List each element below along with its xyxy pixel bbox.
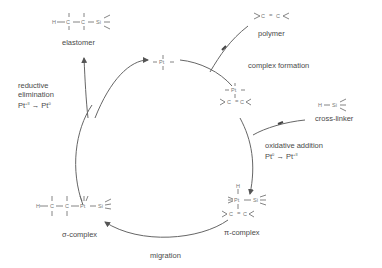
pi-complex-double-bond: = <box>237 210 241 216</box>
crosslinker-h: H <box>318 102 322 108</box>
catalyst-pt: Pt <box>159 59 164 65</box>
arrow-right-icon: → <box>32 101 40 110</box>
cycle-arc-bottom <box>105 220 228 237</box>
sigma-complex-si: Si <box>98 203 103 209</box>
pi-complex-c2: C <box>243 211 247 217</box>
polymer-label: polymer <box>258 29 285 38</box>
complex-double-bond: = <box>235 98 239 104</box>
pi-complex-c1: C <box>229 211 233 217</box>
oxidative-addition-equation: Pt0 → Pt+II <box>265 150 323 161</box>
elastomer-formula-si: Si <box>96 19 101 25</box>
cycle-diagram <box>0 0 382 268</box>
sigma-complex-c1: C <box>50 203 54 209</box>
elastomer-arrow <box>84 58 88 118</box>
crosslinker-si: Si <box>332 102 337 108</box>
pi-complex-pt: Pt <box>234 197 239 203</box>
sigma-complex-pt: Pt <box>80 203 85 209</box>
sigma-complex-h: H <box>36 203 40 209</box>
complex-c2: C <box>240 99 244 105</box>
cycle-arc-top-left <box>95 60 148 118</box>
pi-complex-label: π-complex <box>224 228 260 237</box>
complex-formation-label: complex formation <box>248 61 309 70</box>
polymer-c1: C <box>261 13 265 19</box>
arrow-right-icon: → <box>276 152 284 161</box>
migration-label: migration <box>150 251 181 260</box>
reductive-elimination-equation: Pt+II → Pt0 <box>18 99 54 110</box>
elastomer-formula-h: H <box>52 19 56 25</box>
crosslinker-label: cross-linker <box>315 114 353 123</box>
polymer-arrow <box>210 26 248 72</box>
elastomer-formula-c1: C <box>66 19 70 25</box>
polymer-c2: C <box>276 13 280 19</box>
sigma-complex-label: σ-complex <box>62 230 97 239</box>
oxidative-addition-label: oxidative addition Pt0 → Pt+II <box>265 141 323 161</box>
cycle-arc-right <box>240 118 253 194</box>
cycle-arc-top-right <box>180 60 232 86</box>
pi-complex-si: Si <box>253 197 258 203</box>
cycle-arc-left <box>76 105 92 205</box>
sigma-complex-c2: C <box>65 203 69 209</box>
pi-complex-h: H <box>236 183 240 189</box>
polymer-double-bond: = <box>269 12 273 18</box>
complex-pt: Pt <box>231 87 236 93</box>
complex-c1: C <box>227 99 231 105</box>
elastomer-label: elastomer <box>62 38 95 47</box>
crosslinker-arrow <box>253 120 305 135</box>
elastomer-formula-c2: C <box>81 19 85 25</box>
reductive-elimination-label: reductive elimination Pt+II → Pt0 <box>18 81 54 110</box>
